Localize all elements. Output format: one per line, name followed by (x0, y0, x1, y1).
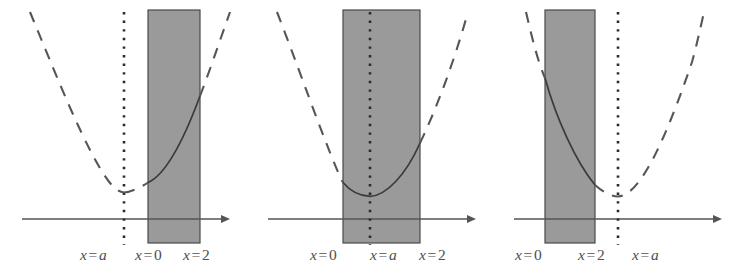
panel-1-axis-labels: x=a x=0 x=2 (0, 246, 246, 272)
panel-vertex-right: x=0 x=2 x=a (492, 0, 737, 276)
panel-3-graphic (492, 0, 737, 276)
label-x-eq-0: x=0 (135, 246, 162, 264)
panel-1-graphic (0, 0, 246, 276)
label-x-eq-a: x=a (370, 246, 397, 264)
parabola-dashed-left-inner (124, 183, 148, 193)
label-x-eq-a: x=a (632, 246, 659, 264)
panel-2-graphic (246, 0, 492, 276)
shaded-band (343, 10, 420, 243)
panel-2-axis-labels: x=0 x=a x=2 (246, 246, 492, 272)
parabola-dashed-right (420, 12, 468, 143)
parabola-dashed-left (30, 12, 124, 193)
label-x-eq-a: x=a (80, 246, 107, 264)
label-x-eq-0: x=0 (310, 246, 337, 264)
parabola-dashed-right (595, 12, 704, 197)
parabola-dashed-right (200, 12, 230, 96)
shaded-band (148, 10, 200, 243)
parabola-dashed-left (277, 12, 343, 183)
parabola-shift-figure: x=a x=0 x=2 x=0 x=a x=2 (0, 0, 737, 276)
label-x-eq-2: x=2 (578, 246, 605, 264)
label-x-eq-2: x=2 (183, 246, 210, 264)
label-x-eq-2: x=2 (419, 246, 446, 264)
panel-vertex-inside: x=0 x=a x=2 (246, 0, 492, 276)
panel-3-axis-labels: x=0 x=2 x=a (492, 246, 737, 272)
panel-vertex-left: x=a x=0 x=2 (0, 0, 246, 276)
shaded-band (545, 10, 595, 243)
parabola-dashed-left (526, 12, 545, 78)
label-x-eq-0: x=0 (515, 246, 542, 264)
